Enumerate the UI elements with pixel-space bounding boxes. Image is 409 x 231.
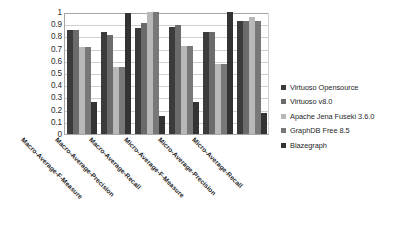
bar	[159, 116, 164, 134]
bar	[203, 32, 208, 134]
legend-item: Virtuoso v8.0	[281, 95, 407, 110]
y-axis-tick: 0.3	[36, 94, 62, 102]
y-axis-tick: 0.1	[36, 119, 62, 127]
bar	[187, 46, 192, 134]
legend-item: Apache Jena Fuseki 3.6.0	[281, 109, 407, 124]
legend-swatch-icon	[281, 128, 286, 133]
plot-area	[64, 13, 269, 135]
legend-label: GraphDB Free 8.5	[290, 126, 350, 135]
bar-group	[167, 13, 201, 134]
bar	[67, 30, 72, 134]
bar-group	[235, 13, 269, 134]
legend-swatch-icon	[281, 143, 286, 148]
bar	[221, 64, 226, 134]
bar	[255, 21, 260, 134]
legend-swatch-icon	[281, 114, 286, 119]
bar	[125, 13, 130, 134]
y-axis-tick: 0.7	[36, 46, 62, 54]
bar	[141, 23, 146, 134]
x-axis-labels: Macro-Average-F-MeasureMacro-Average-Pre…	[64, 136, 269, 231]
legend-swatch-icon	[281, 85, 286, 90]
legend-label: Virtuoso v8.0	[290, 97, 332, 106]
bar	[175, 25, 180, 134]
y-axis-tick: 0.8	[36, 33, 62, 41]
bar	[147, 12, 152, 134]
legend-label: Blazegraph	[290, 141, 327, 150]
bar	[73, 30, 78, 134]
bar	[215, 64, 220, 134]
bar	[227, 12, 232, 134]
bar	[261, 113, 266, 134]
bar	[119, 67, 124, 134]
legend-swatch-icon	[281, 99, 286, 104]
y-axis-tick: 0.2	[36, 107, 62, 115]
bar-group	[99, 13, 133, 134]
chart-legend: Virtuoso OpensourceVirtuoso v8.0Apache J…	[281, 80, 407, 153]
bar	[113, 67, 118, 134]
y-axis-tick: 0.5	[36, 70, 62, 78]
bar	[101, 32, 106, 134]
bar-chart: 10.90.80.70.60.50.40.30.20.10 Macro-Aver…	[0, 0, 409, 231]
bar	[135, 28, 140, 134]
legend-item: Blazegraph	[281, 138, 407, 153]
bar	[91, 102, 96, 134]
bar-group	[65, 13, 99, 134]
bar	[181, 46, 186, 134]
bar	[209, 32, 214, 134]
legend-label: Apache Jena Fuseki 3.6.0	[290, 112, 374, 121]
legend-item: Virtuoso Opensource	[281, 80, 407, 95]
legend-label: Virtuoso Opensource	[290, 83, 358, 92]
bar	[237, 21, 242, 134]
bar-group	[133, 13, 167, 134]
y-axis: 10.90.80.70.60.50.40.30.20.10	[36, 13, 62, 135]
bar-group	[201, 13, 235, 134]
bar	[243, 21, 248, 134]
bar-groups	[65, 13, 269, 134]
bar	[107, 35, 112, 134]
bar	[85, 47, 90, 134]
y-axis-tick: 0.9	[36, 21, 62, 29]
y-axis-tick: 1	[36, 9, 62, 17]
bar	[193, 102, 198, 134]
y-axis-tick: 0.6	[36, 58, 62, 66]
legend-item: GraphDB Free 8.5	[281, 124, 407, 139]
bar	[79, 47, 84, 134]
y-axis-tick: 0.4	[36, 82, 62, 90]
bar	[169, 27, 174, 134]
bar	[249, 17, 254, 134]
bar	[153, 12, 158, 134]
